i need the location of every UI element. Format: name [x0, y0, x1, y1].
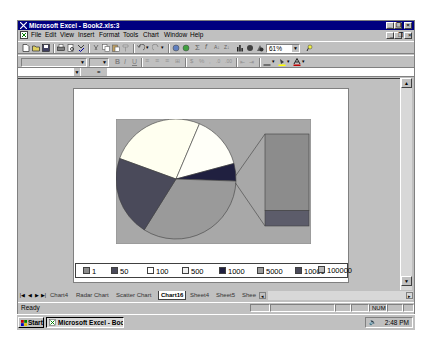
borders-dropdown[interactable]: ▾ [272, 58, 275, 64]
menu-file[interactable]: File [31, 30, 41, 40]
chart-wizard-icon[interactable] [236, 44, 244, 52]
italic-icon[interactable]: I [124, 58, 126, 65]
equals-button[interactable]: = [97, 68, 101, 76]
prev-sheet-button[interactable]: ◀ [26, 292, 33, 299]
tab-sheet-partial[interactable]: Shee [240, 291, 258, 300]
tab-chart16[interactable]: Chart16 [158, 291, 186, 300]
fill-color-dropdown[interactable]: ▾ [287, 58, 290, 64]
tab-scatter-chart[interactable]: Scatter Chart [114, 291, 153, 300]
tab-radar-chart[interactable]: Radar Chart [74, 291, 111, 300]
chevron-up-icon: ▲ [404, 80, 409, 86]
font-color-dropdown[interactable]: ▾ [302, 58, 305, 64]
center-icon[interactable]: ≡ [155, 57, 159, 64]
sort-descending-icon[interactable]: Z↓ [224, 44, 230, 50]
autosum-icon[interactable]: Σ [195, 43, 200, 52]
pie-chart[interactable] [116, 119, 236, 239]
sort-ascending-icon[interactable]: A↓ [214, 44, 220, 50]
menu-help[interactable]: Help [190, 30, 203, 40]
fill-color-icon[interactable] [278, 58, 286, 66]
start-label: Start [28, 319, 43, 326]
print-icon[interactable] [57, 44, 65, 52]
toolbar-separator [236, 58, 238, 67]
scroll-right-button[interactable]: ▸ [406, 292, 413, 299]
merge-center-icon[interactable]: ⊞ [175, 57, 180, 64]
borders-icon[interactable] [263, 58, 271, 66]
menu-insert[interactable]: Insert [78, 30, 94, 40]
cut-icon[interactable] [92, 44, 100, 52]
drawing-icon[interactable] [256, 44, 264, 52]
taskbar-item-excel[interactable]: Microsoft Excel - Boo... [46, 317, 124, 328]
tab-sheet5[interactable]: Sheet5 [214, 291, 237, 300]
menu-view[interactable]: View [60, 30, 74, 40]
restore-button[interactable]: ❐ [394, 22, 402, 29]
print-preview-icon[interactable] [67, 44, 75, 52]
chevron-down-icon[interactable]: ▼ [74, 68, 80, 76]
comma-icon[interactable]: , [209, 58, 211, 64]
redo-dropdown[interactable]: ▾ [161, 44, 164, 50]
document-icon[interactable] [20, 31, 28, 39]
redo-icon[interactable] [152, 44, 160, 52]
font-size-select[interactable]: ▼ [89, 58, 109, 67]
bold-icon[interactable]: B [115, 58, 120, 65]
menu-chart[interactable]: Chart [143, 30, 159, 40]
function-icon[interactable]: f [205, 43, 207, 50]
scroll-up-button[interactable]: ▲ [401, 78, 412, 88]
spelling-icon[interactable] [77, 44, 85, 52]
web-toolbar-icon[interactable] [182, 44, 190, 52]
tab-chart4[interactable]: Chart4 [48, 291, 70, 300]
speaker-icon[interactable]: 🔈 [369, 318, 376, 327]
next-sheet-button[interactable]: ▶ [33, 292, 40, 299]
doc-close-button[interactable]: × [404, 32, 412, 39]
font-color-icon[interactable] [293, 58, 301, 66]
tab-scroll-left-button[interactable]: ◂ [259, 292, 266, 299]
help-icon[interactable] [305, 44, 313, 52]
percent-icon[interactable]: % [199, 58, 204, 64]
title-bar[interactable]: Microsoft Excel - Book2.xls:3 _ ❐ × [18, 21, 414, 30]
close-button[interactable]: × [404, 22, 412, 29]
horizontal-scrollbar[interactable]: ▸ [268, 291, 413, 300]
first-sheet-button[interactable]: |◀ [19, 292, 26, 299]
restore-icon: ❐ [396, 22, 401, 28]
minimize-button[interactable]: _ [386, 22, 394, 29]
new-icon[interactable] [22, 44, 30, 52]
underline-icon[interactable]: U [132, 58, 137, 65]
increase-indent-icon[interactable]: ⇥ [249, 58, 254, 65]
menu-window[interactable]: Window [164, 30, 187, 40]
start-button[interactable]: Start [18, 317, 44, 328]
clock[interactable]: 2:48 PM [385, 319, 409, 326]
menu-format[interactable]: Format [99, 30, 120, 40]
plot-area[interactable] [116, 119, 311, 244]
name-box[interactable]: ▼ [18, 68, 80, 76]
minimize-icon: _ [390, 33, 393, 38]
open-icon[interactable] [32, 44, 40, 52]
last-sheet-button[interactable]: ▶| [40, 292, 47, 299]
bar-segment-1[interactable] [265, 134, 309, 210]
zoom-select[interactable]: 61% ▼ [266, 44, 300, 53]
menu-tools[interactable]: Tools [123, 30, 138, 40]
tab-sheet4[interactable]: Sheet4 [188, 291, 211, 300]
menu-edit[interactable]: Edit [45, 30, 56, 40]
hyperlink-icon[interactable] [172, 44, 180, 52]
scroll-down-button[interactable]: ▼ [401, 276, 412, 286]
decrease-indent-icon[interactable]: ⇤ [240, 58, 245, 65]
currency-icon[interactable]: $ [190, 58, 193, 64]
undo-dropdown[interactable]: ▾ [146, 44, 149, 50]
map-icon[interactable] [246, 44, 254, 52]
decrease-decimal-icon[interactable]: .00 [225, 58, 232, 64]
increase-decimal-icon[interactable]: .0 [216, 58, 220, 64]
copy-icon[interactable] [102, 44, 110, 52]
save-icon[interactable] [42, 44, 50, 52]
paste-icon[interactable] [112, 44, 120, 52]
align-right-icon[interactable]: ≡ [165, 57, 169, 64]
doc-restore-button[interactable]: ❐ [394, 32, 402, 39]
bar-segment-50[interactable] [265, 210, 309, 226]
doc-minimize-button[interactable]: _ [386, 32, 394, 39]
vertical-scrollbar[interactable]: ▲ ▼ [400, 78, 412, 290]
undo-icon[interactable] [137, 44, 145, 52]
chevron-down-icon: ▼ [79, 59, 86, 66]
format-painter-icon[interactable] [122, 44, 130, 52]
align-left-icon[interactable]: ≡ [145, 57, 149, 64]
chart-legend[interactable]: 1 50 100 500 1000 5000 10000 [75, 263, 348, 278]
secondary-bar[interactable] [265, 134, 309, 226]
font-name-select[interactable]: ▼ [21, 58, 87, 67]
